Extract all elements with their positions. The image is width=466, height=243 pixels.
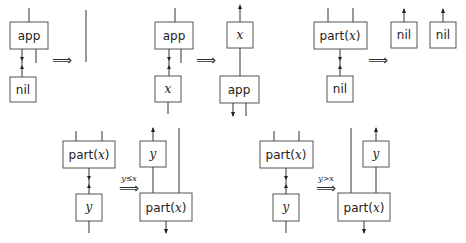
svg-text:nil: nil (397, 28, 411, 42)
arrow-up-icon (374, 127, 378, 132)
rewrite-arrow: ⟹ (119, 180, 139, 196)
svg-text:x: x (165, 82, 172, 96)
nil-label: nil (16, 83, 30, 97)
svg-text:part(x): part(x) (69, 148, 110, 162)
svg-text:app: app (228, 83, 251, 97)
arrow-down-icon (87, 176, 91, 180)
svg-text:y: y (149, 147, 157, 161)
arrow-up-icon (151, 127, 155, 132)
arrow-down-icon (284, 176, 288, 180)
arrow-down-icon (167, 57, 171, 61)
rewrite-arrow: ⟹ (368, 52, 388, 68)
arrow-up-icon (338, 65, 342, 69)
rule-part-nil: part(x) nil ⟹ nil nil (314, 8, 456, 102)
svg-text:part(x): part(x) (146, 201, 187, 215)
svg-text:part(x): part(x) (344, 201, 385, 215)
svg-text:x: x (237, 28, 244, 42)
rewrite-arrow: ⟹ (316, 180, 336, 196)
svg-text:app: app (163, 29, 186, 43)
rewrite-rules-diagram: app nil ⟹ app x ⟹ x app (0, 0, 466, 243)
arrow-down-icon (164, 229, 168, 234)
svg-text:nil: nil (436, 28, 450, 42)
svg-text:y: y (282, 200, 290, 214)
arrow-down-icon (362, 229, 366, 234)
arrow-up-icon (20, 65, 24, 69)
svg-text:y: y (372, 147, 380, 161)
arrow-down-icon (20, 57, 24, 61)
arrow-up-icon (402, 8, 406, 13)
svg-text:y: y (85, 200, 93, 214)
arrow-down-icon (338, 57, 342, 61)
rule-app-nil: app nil ⟹ (10, 8, 86, 102)
arrow-down-icon (231, 112, 235, 117)
arrow-up-icon (167, 65, 171, 69)
svg-text:part(x): part(x) (320, 29, 361, 43)
arrow-up-icon (284, 184, 288, 188)
rule-part-y-le: part(x) y y≤x ⟹ y part(x) (63, 127, 192, 234)
rewrite-arrow: ⟹ (52, 52, 72, 68)
rule-part-y-gt: part(x) y y>x ⟹ y part(x) (260, 127, 390, 234)
app-label: app (18, 29, 41, 43)
arrow-up-icon (441, 8, 445, 13)
rewrite-arrow: ⟹ (196, 52, 216, 68)
rule-app-x: app x ⟹ x app (155, 4, 259, 117)
svg-text:part(x): part(x) (266, 148, 307, 162)
arrow-up-icon (238, 4, 242, 9)
arrow-up-icon (87, 184, 91, 188)
svg-text:nil: nil (333, 82, 347, 96)
